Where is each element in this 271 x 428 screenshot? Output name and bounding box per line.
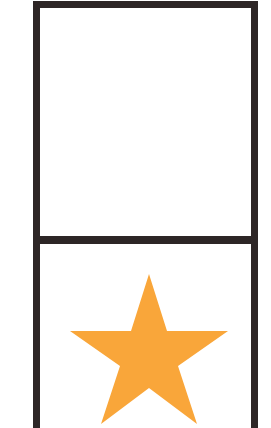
star-icon bbox=[70, 274, 228, 424]
panel-divider bbox=[40, 236, 251, 244]
card-frame bbox=[33, 1, 258, 428]
empty-panel bbox=[40, 8, 251, 236]
star-panel bbox=[40, 244, 251, 428]
